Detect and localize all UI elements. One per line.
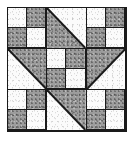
patch-dark <box>105 89 125 110</box>
hst-bottom-center <box>46 89 86 131</box>
four-patch-grid <box>8 8 46 48</box>
patch-light <box>105 109 125 130</box>
four-patch-bottom-right <box>86 89 126 131</box>
half-square-triangle <box>87 49 125 89</box>
patch-light <box>26 109 46 130</box>
four-patch-center <box>46 48 86 90</box>
patch-light <box>86 89 106 110</box>
four-patch-grid <box>87 90 125 130</box>
hst-top-center <box>46 7 86 49</box>
patch-dark <box>86 109 106 130</box>
four-patch-grid <box>87 8 125 48</box>
half-square-triangle <box>47 90 85 130</box>
patch-light <box>65 68 85 89</box>
four-patch-grid <box>8 90 46 130</box>
patch-light <box>46 48 66 69</box>
patch-light <box>7 89 27 110</box>
patch-dark <box>26 7 46 28</box>
half-square-triangle <box>8 49 46 89</box>
four-patch-bottom-left <box>7 89 47 131</box>
patch-dark <box>26 89 46 110</box>
patch-light <box>86 7 106 28</box>
quilt-diagram-canvas <box>0 0 135 141</box>
quilt-block <box>7 7 127 132</box>
patch-dark <box>46 68 66 89</box>
hst-middle-right <box>86 48 126 90</box>
patch-dark <box>65 48 85 69</box>
patch-dark <box>86 27 106 48</box>
four-patch-grid <box>47 49 85 89</box>
patch-light <box>7 7 27 28</box>
patch-dark <box>7 27 27 48</box>
hst-middle-left <box>7 48 47 90</box>
patch-dark <box>105 7 125 28</box>
patch-light <box>105 27 125 48</box>
half-square-triangle <box>47 8 85 48</box>
patch-light <box>26 27 46 48</box>
four-patch-top-right <box>86 7 126 49</box>
patch-dark <box>7 109 27 130</box>
four-patch-top-left <box>7 7 47 49</box>
